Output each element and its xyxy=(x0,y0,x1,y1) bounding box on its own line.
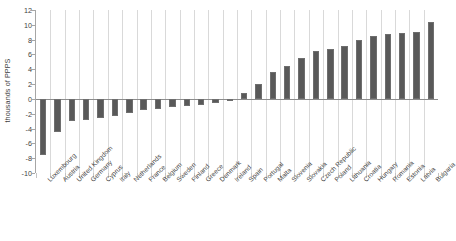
bar[interactable] xyxy=(313,51,319,98)
y-tick-mark xyxy=(31,143,35,144)
bar[interactable] xyxy=(341,46,347,99)
bar[interactable] xyxy=(54,99,60,132)
bar[interactable] xyxy=(40,99,46,155)
bar[interactable] xyxy=(169,99,175,107)
y-axis-title: thousands of PPPS xyxy=(0,0,14,180)
x-axis-category-labels: LuxembourgAustriaUnited KingdomGermanyCy… xyxy=(36,178,438,241)
bar[interactable] xyxy=(198,99,204,105)
bar[interactable] xyxy=(284,66,290,99)
bar[interactable] xyxy=(140,99,146,110)
y-tick-mark xyxy=(31,129,35,130)
bar[interactable] xyxy=(356,40,362,99)
y-tick-mark xyxy=(31,114,35,115)
bar[interactable] xyxy=(241,93,247,99)
bar[interactable] xyxy=(97,99,103,118)
bar[interactable] xyxy=(184,99,190,106)
bar[interactable] xyxy=(155,99,161,109)
y-axis-title-text: thousands of PPPS xyxy=(3,58,12,122)
y-tick-mark xyxy=(31,69,35,70)
bar[interactable] xyxy=(255,84,261,99)
y-tick-mark xyxy=(31,40,35,41)
bar[interactable] xyxy=(385,34,391,98)
bar[interactable] xyxy=(413,32,419,99)
bar[interactable] xyxy=(327,49,333,99)
y-tick-mark xyxy=(31,10,35,11)
y-tick-mark xyxy=(31,84,35,85)
bar[interactable] xyxy=(83,99,89,120)
y-tick-mark xyxy=(31,158,35,159)
bar[interactable] xyxy=(112,99,118,116)
bar[interactable] xyxy=(270,72,276,99)
bar[interactable] xyxy=(298,58,304,99)
bars-layer xyxy=(36,10,438,173)
bar[interactable] xyxy=(370,36,376,99)
bar[interactable] xyxy=(227,99,233,101)
y-tick-mark xyxy=(31,54,35,55)
y-tick-mark xyxy=(31,99,35,100)
y-tick-mark xyxy=(31,173,35,174)
bar[interactable] xyxy=(428,22,434,99)
bar[interactable] xyxy=(126,99,132,113)
bar[interactable] xyxy=(69,99,75,121)
bar[interactable] xyxy=(399,33,405,99)
bar[interactable] xyxy=(212,99,218,103)
plot-area xyxy=(36,10,438,173)
y-axis-tick-labels: 121086420-2-4-6-8-10 xyxy=(14,0,34,180)
y-tick-mark xyxy=(31,25,35,26)
